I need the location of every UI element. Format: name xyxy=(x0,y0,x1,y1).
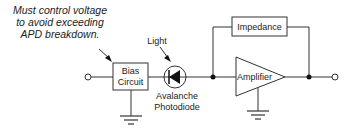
output-terminal xyxy=(332,74,338,80)
junction-dot-input xyxy=(211,75,216,80)
photodiode-label-line2: Photodiode xyxy=(154,102,200,112)
annotation-line1: Must control voltage xyxy=(13,4,107,16)
photodiode-label-line1: Avalanche xyxy=(156,91,198,101)
light-arrow xyxy=(160,47,171,62)
input-terminal xyxy=(85,74,91,80)
bias-label-line1: Bias xyxy=(122,66,140,76)
ground-icon-amplifier xyxy=(247,111,269,119)
impedance-label: Impedance xyxy=(237,22,282,32)
light-label: Light xyxy=(147,36,167,46)
bias-label-line2: Circuit xyxy=(118,77,144,87)
photodiode-icon xyxy=(164,66,186,88)
ground-icon-bias xyxy=(120,116,142,124)
annotation-line3: APD breakdown. xyxy=(20,28,100,40)
apd-circuit-diagram: Bias Circuit Impedance Amplifier Must co… xyxy=(0,0,356,140)
annotation-line2: to avoid exceeding xyxy=(16,16,104,28)
annotation-arrow xyxy=(99,49,112,62)
feedback-wire-right xyxy=(287,27,309,77)
junction-dot-output xyxy=(307,75,312,80)
amplifier-label: Amplifier xyxy=(237,72,272,82)
feedback-wire-left xyxy=(213,27,232,77)
